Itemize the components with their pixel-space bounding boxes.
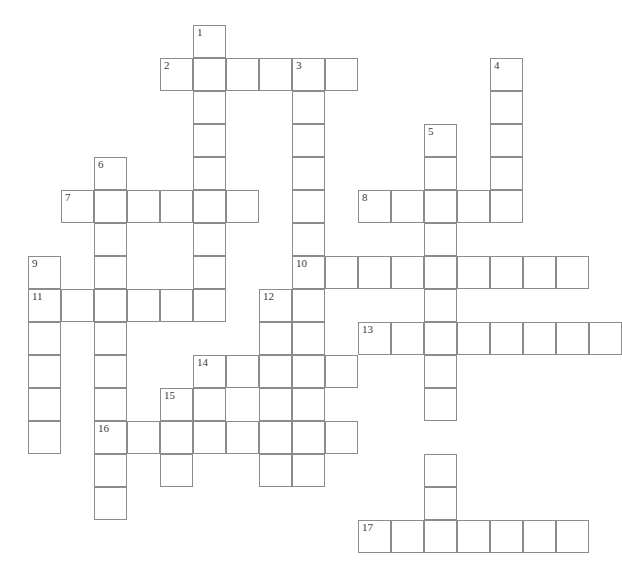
grid-cell[interactable] [457,322,490,355]
grid-cell[interactable] [94,388,127,421]
grid-cell[interactable] [292,124,325,157]
grid-cell[interactable] [292,355,325,388]
grid-cell[interactable] [94,322,127,355]
grid-cell[interactable] [259,421,292,454]
grid-cell[interactable] [490,520,523,553]
grid-cell[interactable] [556,520,589,553]
grid-cell[interactable] [523,520,556,553]
grid-cell[interactable] [292,421,325,454]
grid-cell[interactable] [292,388,325,421]
grid-cell[interactable] [127,421,160,454]
grid-cell[interactable] [127,289,160,322]
grid-cell[interactable]: 11 [28,289,61,322]
grid-cell[interactable]: 15 [160,388,193,421]
grid-cell[interactable]: 14 [193,355,226,388]
grid-cell[interactable] [325,355,358,388]
grid-cell[interactable] [391,256,424,289]
grid-cell[interactable] [94,289,127,322]
grid-cell[interactable] [490,124,523,157]
grid-cell[interactable]: 6 [94,157,127,190]
grid-cell[interactable] [193,289,226,322]
grid-cell[interactable]: 9 [28,256,61,289]
grid-cell[interactable] [391,520,424,553]
grid-cell[interactable] [193,190,226,223]
grid-cell[interactable]: 7 [61,190,94,223]
grid-cell[interactable] [193,421,226,454]
grid-cell[interactable] [94,256,127,289]
grid-cell[interactable] [391,190,424,223]
grid-cell[interactable] [193,124,226,157]
grid-cell[interactable] [358,256,391,289]
grid-cell[interactable] [94,190,127,223]
grid-cell[interactable] [193,58,226,91]
crossword-grid[interactable]: 1234567891011121314151617 [0,0,622,568]
grid-cell[interactable] [259,322,292,355]
grid-cell[interactable] [292,289,325,322]
grid-cell[interactable] [193,223,226,256]
grid-cell[interactable] [424,223,457,256]
grid-cell[interactable] [424,520,457,553]
grid-cell[interactable]: 8 [358,190,391,223]
grid-cell[interactable] [193,388,226,421]
grid-cell[interactable] [226,190,259,223]
grid-cell[interactable] [523,322,556,355]
grid-cell[interactable] [589,322,622,355]
grid-cell[interactable] [259,454,292,487]
grid-cell[interactable] [292,454,325,487]
grid-cell[interactable] [292,157,325,190]
grid-cell[interactable] [490,256,523,289]
grid-cell[interactable] [424,289,457,322]
grid-cell[interactable]: 2 [160,58,193,91]
grid-cell[interactable]: 5 [424,124,457,157]
grid-cell[interactable] [160,421,193,454]
grid-cell[interactable]: 12 [259,289,292,322]
grid-cell[interactable] [457,256,490,289]
grid-cell[interactable] [490,190,523,223]
grid-cell[interactable] [325,256,358,289]
grid-cell[interactable] [292,223,325,256]
grid-cell[interactable]: 1 [193,25,226,58]
grid-cell[interactable] [424,190,457,223]
grid-cell[interactable] [523,256,556,289]
grid-cell[interactable] [28,421,61,454]
grid-cell[interactable] [556,322,589,355]
grid-cell[interactable] [490,91,523,124]
grid-cell[interactable] [28,355,61,388]
grid-cell[interactable] [424,256,457,289]
grid-cell[interactable] [259,355,292,388]
grid-cell[interactable]: 13 [358,322,391,355]
grid-cell[interactable] [94,355,127,388]
grid-cell[interactable] [61,289,94,322]
grid-cell[interactable] [226,355,259,388]
grid-cell[interactable] [193,91,226,124]
grid-cell[interactable] [325,58,358,91]
grid-cell[interactable] [226,421,259,454]
grid-cell[interactable] [424,454,457,487]
grid-cell[interactable] [160,454,193,487]
grid-cell[interactable] [556,256,589,289]
grid-cell[interactable] [160,289,193,322]
grid-cell[interactable] [292,322,325,355]
grid-cell[interactable] [292,190,325,223]
grid-cell[interactable] [424,157,457,190]
grid-cell[interactable] [424,355,457,388]
grid-cell[interactable]: 17 [358,520,391,553]
grid-cell[interactable] [193,157,226,190]
grid-cell[interactable] [226,58,259,91]
grid-cell[interactable] [490,322,523,355]
grid-cell[interactable] [193,256,226,289]
grid-cell[interactable] [259,388,292,421]
grid-cell[interactable]: 3 [292,58,325,91]
grid-cell[interactable] [259,58,292,91]
grid-cell[interactable] [457,190,490,223]
grid-cell[interactable] [127,190,160,223]
grid-cell[interactable] [391,322,424,355]
grid-cell[interactable] [28,322,61,355]
grid-cell[interactable] [94,454,127,487]
grid-cell[interactable]: 4 [490,58,523,91]
grid-cell[interactable] [292,91,325,124]
grid-cell[interactable] [94,487,127,520]
grid-cell[interactable]: 10 [292,256,325,289]
grid-cell[interactable] [457,520,490,553]
grid-cell[interactable] [325,421,358,454]
